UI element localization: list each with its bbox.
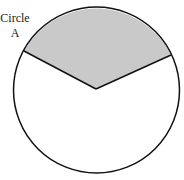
diagram-canvas: Circle A bbox=[0, 0, 184, 180]
circle-label-line2: A bbox=[0, 26, 30, 41]
circle-label-line1: Circle bbox=[0, 11, 30, 26]
circle-label: Circle A bbox=[0, 11, 30, 41]
